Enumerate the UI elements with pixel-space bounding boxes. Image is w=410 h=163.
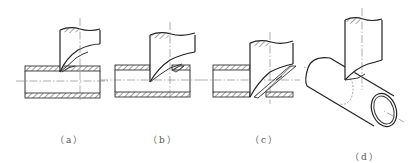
panel-label-a: （a） <box>55 133 84 146</box>
cutter-c <box>250 41 296 98</box>
panel-c <box>200 32 300 104</box>
panel-label-c: （c） <box>250 133 279 146</box>
panel-b <box>100 22 200 100</box>
cutter-b <box>150 33 195 82</box>
panel-label-b: （b） <box>148 133 178 146</box>
panel-label-d: （d） <box>350 150 380 163</box>
cutter-d <box>345 18 382 80</box>
pipe-a <box>25 66 100 98</box>
panel-d <box>304 8 404 130</box>
panel-a <box>16 18 108 100</box>
